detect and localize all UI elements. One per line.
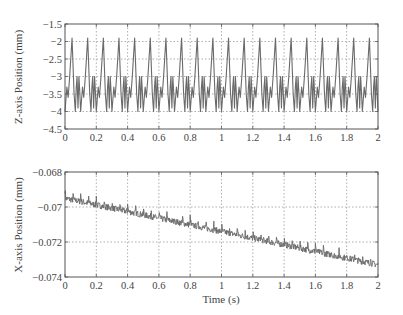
data-line [65,191,378,267]
x-tick-label: 1 [219,132,224,143]
x-tick-label: 0 [62,280,67,291]
x-tick-label: 1 [219,280,224,291]
x-tick-label: 0.2 [90,132,103,143]
x-tick-label: 1.8 [340,132,353,143]
x-tick-label: 0.8 [184,280,197,291]
x-tick-label: 2 [375,132,380,143]
y-tick-label: −3 [51,71,62,82]
x-tick-label: 0.6 [152,280,165,291]
time-xlabel: Time (s) [202,293,240,306]
x-tick-label: 1.4 [278,132,292,143]
x-axis-plot: 00.20.40.60.811.21.41.61.82−0.068−0.07−0… [32,167,380,292]
y-tick-label: −4.5 [43,124,62,135]
figure: 00.20.40.60.811.21.41.61.82−1.5−2−2.5−3−… [0,0,403,315]
x-tick-label: 1.2 [246,132,259,143]
x-tick-label: 0.2 [90,280,103,291]
y-tick-label: −2 [51,36,62,47]
x-tick-label: 0 [62,132,67,143]
y-tick-label: −0.074 [32,272,62,283]
x-tick-label: 0.4 [121,132,135,143]
x-tick-label: 1.4 [278,280,292,291]
x-tick-label: 0.8 [184,132,197,143]
x-tick-label: 1.6 [309,280,322,291]
y-tick-label: −2.5 [43,54,62,65]
z-axis-ylabel: Z-axis Position (mm) [12,30,25,124]
x-tick-label: 1.6 [309,132,322,143]
x-tick-label: 2 [375,280,380,291]
x-axis-ylabel: X-axis Position (mm) [12,177,25,273]
y-tick-label: −0.07 [38,202,62,213]
x-tick-label: 0.4 [121,280,135,291]
y-tick-label: −0.068 [32,167,62,178]
y-tick-label: −4 [51,106,63,117]
y-tick-label: −3.5 [43,89,62,100]
x-tick-label: 1.2 [246,280,259,291]
z-axis-plot: 00.20.40.60.811.21.41.61.82−1.5−2−2.5−3−… [43,19,381,144]
y-tick-label: −0.072 [32,237,62,248]
x-tick-label: 1.8 [340,280,353,291]
y-tick-label: −1.5 [43,19,62,30]
x-tick-label: 0.6 [152,132,165,143]
